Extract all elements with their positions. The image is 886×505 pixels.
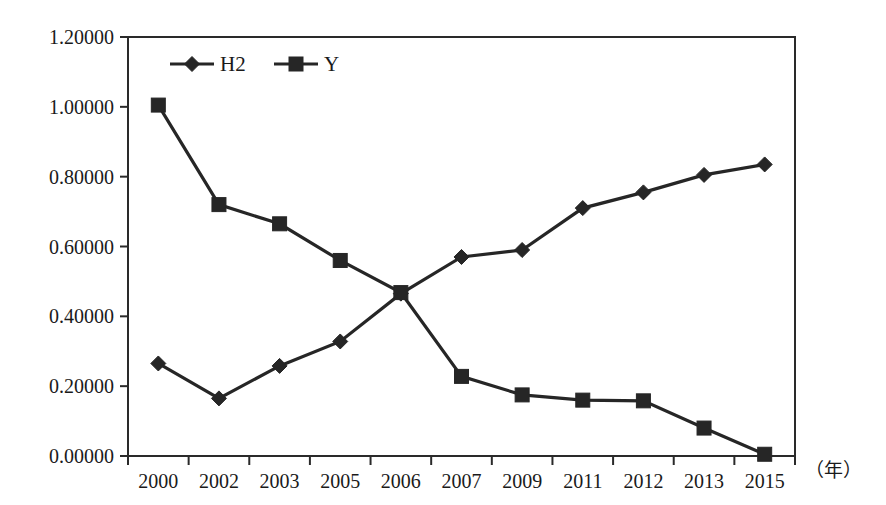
- data-point-marker-square: [273, 217, 287, 231]
- data-point-marker-square: [289, 57, 303, 71]
- data-point-marker-square: [636, 394, 650, 408]
- legend-label-y: Y: [324, 52, 339, 76]
- data-point-marker-diamond: [211, 391, 226, 406]
- x-axis-ticks: [128, 456, 795, 465]
- data-point-marker-diamond: [185, 57, 200, 72]
- data-point-marker-square: [758, 447, 772, 461]
- data-point-marker-diamond: [151, 356, 166, 371]
- series-y: [151, 98, 771, 461]
- y-tick-label: 0.20000: [49, 375, 114, 397]
- x-tick-label: 2007: [442, 470, 482, 492]
- x-tick-label: 2013: [684, 470, 724, 492]
- data-point-marker-square: [455, 369, 469, 383]
- x-tick-label: 2003: [260, 470, 300, 492]
- data-point-marker-square: [151, 98, 165, 112]
- data-point-marker-square: [697, 421, 711, 435]
- x-tick-label: 2012: [623, 470, 663, 492]
- series-line-h2: [158, 164, 764, 398]
- data-point-marker-square: [333, 253, 347, 267]
- x-tick-label: 2011: [563, 470, 602, 492]
- x-tick-label: 2015: [745, 470, 785, 492]
- series-line-y: [158, 105, 764, 454]
- series-h2: [151, 157, 772, 406]
- x-tick-label: 2009: [502, 470, 542, 492]
- data-point-marker-diamond: [636, 185, 651, 200]
- chart-figure: 0.000000.200000.400000.600000.800001.000…: [0, 0, 886, 505]
- series-layer: [151, 98, 772, 461]
- y-tick-label: 1.20000: [49, 26, 114, 48]
- legend-label-h2: H2: [220, 52, 246, 76]
- y-tick-label: 1.00000: [49, 96, 114, 118]
- x-axis-tick-labels: 2000200220032005200620072009201120122013…: [138, 470, 784, 492]
- legend-item-y: Y: [274, 52, 339, 76]
- data-point-marker-diamond: [454, 249, 469, 264]
- chart-legend: H2Y: [170, 52, 339, 76]
- x-tick-label: 2005: [320, 470, 360, 492]
- y-axis-tick-labels: 0.000000.200000.400000.600000.800001.000…: [49, 26, 114, 467]
- data-point-marker-square: [576, 393, 590, 407]
- x-axis-unit-note: （年）: [805, 460, 862, 481]
- line-chart: 0.000000.200000.400000.600000.800001.000…: [0, 0, 886, 505]
- y-tick-label: 0.60000: [49, 236, 114, 258]
- data-point-marker-square: [515, 388, 529, 402]
- x-tick-label: 2006: [381, 470, 421, 492]
- data-point-marker-diamond: [697, 167, 712, 182]
- data-point-marker-square: [394, 286, 408, 300]
- y-tick-label: 0.40000: [49, 305, 114, 327]
- x-tick-label: 2002: [199, 470, 239, 492]
- data-point-marker-diamond: [272, 358, 287, 373]
- legend-item-h2: H2: [170, 52, 246, 76]
- y-tick-label: 0.80000: [49, 166, 114, 188]
- y-axis-ticks: [120, 37, 128, 456]
- data-point-marker-diamond: [757, 157, 772, 172]
- y-tick-label: 0.00000: [49, 445, 114, 467]
- data-point-marker-square: [212, 198, 226, 212]
- x-tick-label: 2000: [138, 470, 178, 492]
